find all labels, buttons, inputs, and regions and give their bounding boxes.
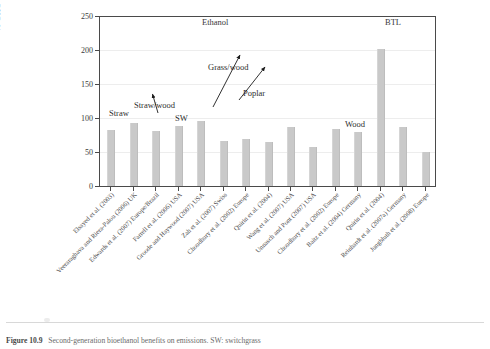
y-tick-label-0: 0 — [53, 183, 93, 191]
bar — [309, 147, 317, 186]
annotation-grass-wood: Grass/wood — [208, 62, 249, 72]
x-axis-tick-label: Choudhury et al. (2002) Europe — [132, 191, 250, 309]
figure-container: % GHG improvement 250 200 150 100 50 0 — [0, 0, 490, 349]
y-axis-title: % GHG improvement — [0, 0, 2, 52]
x-axis-tick-label: Quirin et al. (2004) — [267, 191, 385, 309]
y-tick-label-200: 200 — [53, 47, 93, 55]
bar — [354, 132, 362, 186]
figure-caption-number: Figure 10.9 — [6, 336, 43, 345]
bar — [377, 49, 385, 186]
x-axis-tick-label: Wang et al. (2007) USA — [177, 191, 295, 309]
y-tick-label-100: 100 — [53, 115, 93, 123]
x-tick-mark — [290, 187, 291, 191]
x-tick-mark — [335, 187, 336, 191]
bar — [130, 123, 138, 186]
annotation-sw: SW — [175, 113, 188, 123]
bar — [197, 121, 205, 186]
annotation-straw: Straw — [109, 108, 129, 118]
x-tick-mark — [245, 187, 246, 191]
annotation-straw-wood: Straw/wood — [134, 100, 175, 110]
group-label-btl: BTL — [385, 17, 401, 27]
x-tick-mark — [200, 187, 201, 191]
x-tick-mark — [425, 187, 426, 191]
x-axis-tick-label: Groode and Haywood (2007) USA — [87, 191, 205, 309]
x-axis-tick-label: Edwards et al. (2007) Europe/Brazil — [42, 191, 160, 309]
x-axis-tick-label: Choudhury et al. (2002) Europe — [222, 191, 340, 309]
x-tick-mark — [223, 187, 224, 191]
figure-caption: Figure 10.9 Second-generation bioethanol… — [6, 336, 484, 345]
bar — [265, 142, 273, 186]
bar — [242, 139, 250, 186]
x-tick-mark — [312, 187, 313, 191]
x-axis-tick-label: Baitz et al. (2004) Germany — [244, 191, 362, 309]
y-tick-label-150: 150 — [53, 81, 93, 89]
x-axis-tick-label: Quirin et al. (2004) — [154, 191, 272, 309]
x-tick-mark — [380, 187, 381, 191]
figure-caption-text: Second-generation bioethanol benefits on… — [48, 336, 261, 345]
x-axis-tick-label: Veeraraghava and Riera-Palou (2006) UK — [20, 191, 138, 309]
bar — [175, 126, 183, 186]
x-tick-mark — [268, 187, 269, 191]
bar — [107, 130, 115, 186]
x-tick-mark — [155, 187, 156, 191]
x-axis-tick-label: Jungbluth et al. (2008) Europe — [312, 191, 430, 309]
x-axis-tick-label: Unnasch and Pont (2007) USA — [199, 191, 317, 309]
x-tick-mark — [133, 187, 134, 191]
x-tick-mark — [357, 187, 358, 191]
x-axis-tick-label: Zah et al. (2007) Swiss — [109, 191, 227, 309]
y-tick-label-250: 250 — [53, 13, 93, 21]
bar — [332, 129, 340, 186]
annotation-wood: Wood — [345, 119, 365, 129]
y-tick-label-50: 50 — [53, 149, 93, 157]
x-axis-tick-label: Farrell et al. (2006) USA — [64, 191, 182, 309]
x-tick-mark — [110, 187, 111, 191]
x-tick-mark — [402, 187, 403, 191]
x-tick-mark — [178, 187, 179, 191]
bar — [152, 131, 160, 186]
x-axis-tick-label: Reinhardt et al. (2007a) Germany — [289, 191, 407, 309]
x-axis-tick-label: Elsayed et al. (2003) — [0, 191, 115, 309]
bar — [422, 152, 430, 186]
caption-divider — [6, 322, 484, 323]
bar — [220, 141, 228, 186]
group-label-ethanol: Ethanol — [202, 17, 228, 27]
annotation-poplar: Poplar — [243, 88, 265, 98]
bar — [287, 127, 295, 186]
bar — [399, 127, 407, 186]
